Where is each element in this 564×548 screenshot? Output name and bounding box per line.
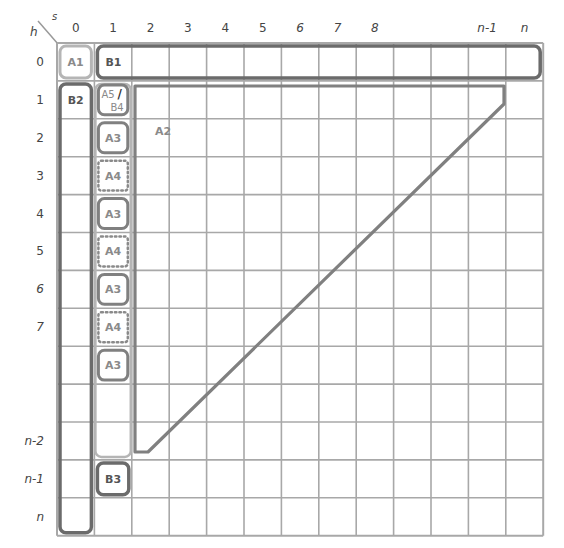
- row-labels: 01234567n-2n-1n: [24, 55, 44, 524]
- row-axis-label: h: [30, 25, 38, 39]
- col-label: 4: [221, 21, 229, 35]
- row-label: 0: [36, 55, 44, 69]
- region-label: B2: [68, 94, 84, 107]
- corner-diagonal: [38, 21, 58, 44]
- region-label: B3: [105, 473, 121, 486]
- region-label: B1: [105, 56, 121, 69]
- grid-diagram: h s 012345678n-1n 01234567n-2n-1n A2 A1B…: [0, 0, 564, 548]
- col-label: n: [521, 21, 529, 35]
- col-label: 0: [72, 21, 80, 35]
- region-label: A4: [105, 321, 122, 334]
- region-label: A3: [105, 283, 121, 296]
- region-label: A3: [105, 359, 121, 372]
- col-label: 6: [296, 21, 304, 35]
- a2-label: A2: [155, 125, 171, 138]
- region-label: A3: [105, 132, 121, 145]
- row-label: 2: [36, 131, 44, 145]
- axis-corner: h s: [30, 11, 58, 44]
- col-label: 5: [259, 21, 267, 35]
- region-label-b4: B4: [110, 102, 123, 113]
- col-label: n-1: [477, 21, 497, 35]
- row-label: 3: [36, 169, 44, 183]
- region-label-a5: A5: [101, 89, 114, 100]
- row-label: n-1: [24, 472, 44, 486]
- row-label: 4: [36, 207, 44, 221]
- col-axis-label: s: [52, 11, 57, 22]
- col-label: 7: [334, 21, 342, 35]
- col-label: 2: [147, 21, 155, 35]
- row-label: 1: [36, 93, 44, 107]
- col-label: 8: [371, 21, 379, 35]
- col-label: 1: [109, 21, 117, 35]
- region-label-slash: /: [117, 87, 122, 101]
- row-label: n-2: [24, 434, 44, 448]
- row-label: 5: [36, 244, 44, 258]
- row-label: 7: [36, 320, 44, 334]
- row-label: n: [36, 510, 44, 524]
- region-label: A3: [105, 208, 121, 221]
- region-label: A1: [68, 56, 84, 69]
- col-label: 3: [184, 21, 192, 35]
- column-labels: 012345678n-1n: [72, 21, 528, 35]
- region-label: A4: [105, 170, 122, 183]
- row-label: 6: [36, 282, 44, 296]
- region-label: A4: [105, 245, 122, 258]
